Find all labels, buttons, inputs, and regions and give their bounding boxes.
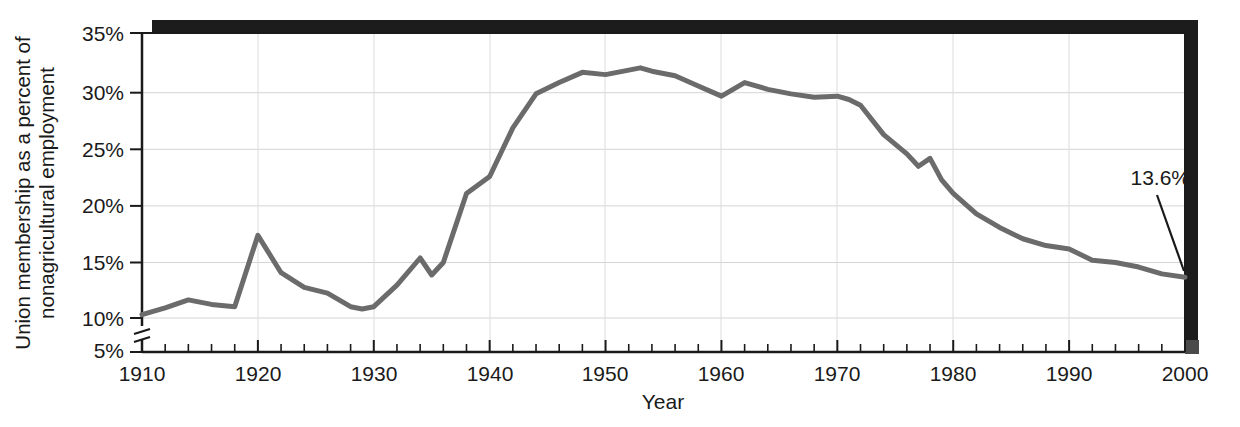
- y-tick-label: 25%: [82, 138, 124, 161]
- y-tick-label: 10%: [82, 307, 124, 330]
- y-tick-label: 20%: [82, 194, 124, 217]
- y-tick-label: 15%: [82, 251, 124, 274]
- x-tick-label: 1980: [930, 362, 977, 385]
- x-tick-label: 1940: [467, 362, 514, 385]
- chart-canvas: 35% 30% 25% 20% 15% 10% 5% 1910 1920 193…: [0, 0, 1240, 427]
- union-membership-chart: 35% 30% 25% 20% 15% 10% 5% 1910 1920 193…: [0, 0, 1240, 427]
- x-tick-label: 2000: [1162, 362, 1209, 385]
- y-tick-label: 30%: [82, 81, 124, 104]
- x-tick-label: 1930: [351, 362, 398, 385]
- y-tick-label: 35%: [82, 22, 124, 45]
- x-tick-label: 1970: [814, 362, 861, 385]
- x-tick-label: 1950: [582, 362, 629, 385]
- y-tick-label: 5%: [94, 339, 124, 362]
- x-tick-label: 1910: [119, 362, 166, 385]
- x-tick-label: 1920: [235, 362, 282, 385]
- y-axis-title-line2: nonagricultural employment: [35, 67, 58, 319]
- x-tick-label: 1990: [1046, 362, 1093, 385]
- x-axis-title: Year: [642, 390, 684, 413]
- y-tick-labels: 35% 30% 25% 20% 15% 10% 5%: [82, 22, 124, 362]
- y-axis-title: Union membership as a percent of nonagri…: [11, 36, 58, 350]
- plot-area-background: [142, 33, 1185, 352]
- y-axis-title-line1: Union membership as a percent of: [11, 36, 34, 350]
- y-axis-ticks: [130, 33, 142, 352]
- x-tick-label: 1960: [698, 362, 745, 385]
- x-tick-labels: 1910 1920 1930 1940 1950 1960 1970 1980 …: [119, 362, 1209, 385]
- annotation-value-label: 13.6%: [1130, 166, 1190, 189]
